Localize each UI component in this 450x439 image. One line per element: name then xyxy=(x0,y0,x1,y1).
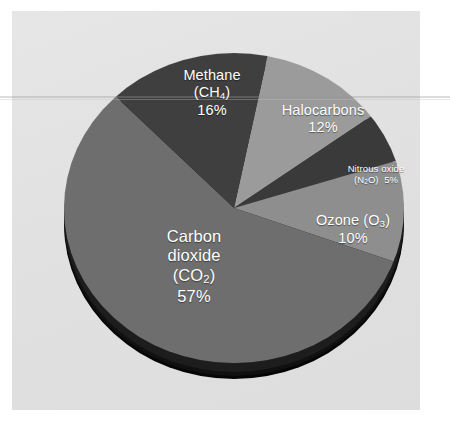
slice-label-nitrous-oxide: Nitrous oxide (N2O) 5% xyxy=(318,163,434,186)
slice-label-methane: Methane (CH4) 16% xyxy=(152,67,272,119)
carbon-dioxide-percent: 57% xyxy=(132,287,256,306)
methane-formula: (CH4) xyxy=(152,84,272,102)
nitrous-oxide-percent: 5% xyxy=(384,174,398,185)
slice-label-ozone: Ozone (O3) 10% xyxy=(292,212,414,247)
nitrous-oxide-name: Nitrous oxide xyxy=(318,163,434,174)
slice-label-halocarbons: Halocarbons 12% xyxy=(262,102,384,136)
halocarbons-percent: 12% xyxy=(262,119,384,136)
methane-percent: 16% xyxy=(152,102,272,119)
slice-label-carbon-dioxide: Carbon dioxide (CO2) 57% xyxy=(132,227,256,306)
carbon-dioxide-name-line1: Carbon xyxy=(132,227,256,246)
carbon-dioxide-formula: (CO2) xyxy=(132,266,256,287)
ozone-name-formula: Ozone (O3) xyxy=(292,212,414,230)
carbon-dioxide-name-line2: dioxide xyxy=(132,246,256,265)
methane-name: Methane xyxy=(152,67,272,84)
ozone-percent: 10% xyxy=(292,230,414,247)
nitrous-oxide-formula-percent: (N2O) 5% xyxy=(318,174,434,186)
screenshot-root: Methane (CH4) 16% Halocarbons 12% Nitrou… xyxy=(0,0,450,439)
halocarbons-name: Halocarbons xyxy=(262,102,384,119)
